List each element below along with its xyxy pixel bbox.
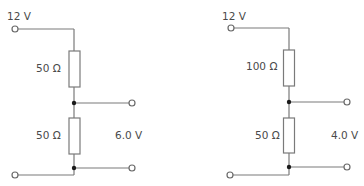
right-input-top-terminal xyxy=(228,25,234,31)
right-output-voltage-label: 4.0 V xyxy=(331,129,359,141)
left-circuit: 12 V 50 Ω 50 Ω 6.0 V xyxy=(7,10,143,178)
left-output-voltage-label: 6.0 V xyxy=(115,129,143,141)
right-bottom-junction xyxy=(287,165,291,169)
left-mid-junction xyxy=(72,101,76,105)
right-top-resistor xyxy=(284,50,295,86)
right-input-bottom-terminal xyxy=(227,172,233,178)
right-mid-junction xyxy=(287,100,291,104)
right-top-resistor-label: 100 Ω xyxy=(246,60,277,72)
circuit-diagram: 12 V 50 Ω 50 Ω 6.0 V 12 V 100 Ω xyxy=(0,0,364,186)
right-output-bottom-terminal xyxy=(344,164,350,170)
right-input-voltage-label: 12 V xyxy=(222,10,247,22)
right-bottom-resistor xyxy=(284,118,295,153)
right-output-top-terminal xyxy=(344,99,350,105)
left-bottom-resistor xyxy=(69,118,80,154)
left-bottom-junction xyxy=(72,166,76,170)
left-input-top-terminal xyxy=(12,26,18,32)
left-top-resistor-label: 50 Ω xyxy=(36,62,61,74)
left-output-top-terminal xyxy=(129,100,135,106)
right-circuit: 12 V 100 Ω 50 Ω 4.0 V xyxy=(222,10,359,178)
left-input-bottom-terminal xyxy=(12,172,18,178)
left-output-bottom-terminal xyxy=(129,165,135,171)
left-top-resistor xyxy=(69,51,80,87)
left-bottom-resistor-label: 50 Ω xyxy=(36,129,61,141)
right-bottom-resistor-label: 50 Ω xyxy=(255,129,280,141)
left-input-voltage-label: 12 V xyxy=(7,10,32,22)
